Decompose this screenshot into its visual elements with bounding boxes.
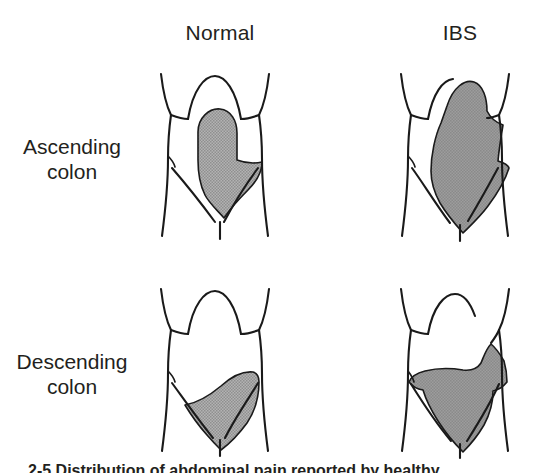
row-label-descending-line1: Descending [17,350,128,373]
panel-normal-descending-colon [135,278,310,468]
torso-left-side-contour [162,330,171,451]
torso-right-flank [499,289,509,330]
torso-left-side-contour [162,115,171,236]
row-label-descending-line2: colon [4,374,140,399]
torso-ribcage-arch [428,294,475,334]
row-label-ascending-line1: Ascending [23,135,121,158]
torso-right-flank [259,289,269,330]
torso-left-flank [401,74,411,115]
torso-left-costal-margin [411,330,428,334]
row-label-ascending-line2: colon [4,159,140,184]
row-label-descending-colon: Descending colon [4,349,140,399]
torso-left-costal-margin [171,115,188,119]
torso-left-costal-margin [411,115,428,119]
column-header-normal: Normal [160,21,280,45]
torso-left-iliac-crest-tick [408,156,415,167]
torso-right-side-contour [499,330,508,451]
torso-right-side-contour [259,330,268,451]
row-label-ascending-colon: Ascending colon [4,134,140,184]
pain-region-ibs-ascending [431,81,509,233]
torso-left-costal-margin [171,330,188,334]
torso-right-flank [259,74,269,115]
torso-right-costal-margin [491,330,499,343]
torso-ribcage-arch [188,291,241,334]
torso-right-side-contour [259,115,268,236]
figure-caption-text: 2-5 Distribution of abdominal pain repor… [0,461,552,473]
torso-left-iliac-crest-tick [168,156,175,167]
abdominal-pain-distribution-figure: Normal IBS Ascending colon Descending co… [0,0,552,473]
pain-region-normal-ascending [198,109,262,218]
panel-normal-ascending-colon [135,63,310,253]
figure-caption: 2-5 Distribution of abdominal pain repor… [0,461,552,473]
torso-left-flank [161,74,171,115]
torso-left-flank [401,289,411,330]
torso-right-costal-margin [241,115,259,119]
torso-left-flank [161,289,171,330]
torso-right-costal-margin [241,330,259,334]
column-header-ibs: IBS [400,21,520,45]
torso-left-side-contour [402,330,411,451]
torso-left-iliac-crest-tick [168,371,175,382]
panel-ibs-ascending-colon [375,63,550,253]
pain-region-normal-descending [185,372,259,450]
torso-right-flank [499,74,509,115]
panel-ibs-descending-colon [375,278,550,468]
torso-left-side-contour [402,115,411,236]
